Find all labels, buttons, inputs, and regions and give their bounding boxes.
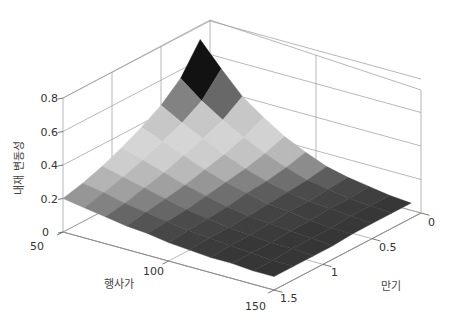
z-tick-0.2: 0.2 bbox=[41, 193, 59, 206]
z-tick bbox=[58, 199, 63, 200]
y-tick-0: 0 bbox=[428, 216, 435, 229]
z-tick-0: 0 bbox=[42, 226, 49, 239]
y-tick-1: 1 bbox=[331, 266, 338, 279]
strike-tick bbox=[163, 261, 169, 264]
volatility-surface bbox=[63, 40, 411, 277]
z-tick bbox=[58, 165, 63, 166]
z-tick bbox=[58, 232, 63, 233]
x-tick-100: 100 bbox=[143, 265, 164, 278]
z-axis-label: 내재 변동성 bbox=[13, 141, 26, 195]
z-tick-0.4: 0.4 bbox=[41, 159, 59, 172]
maturity-tick bbox=[421, 213, 429, 215]
z-tick-0.6: 0.6 bbox=[41, 126, 59, 139]
x-axis-label: 행사가 bbox=[104, 278, 134, 291]
y-tick-0.5: 0.5 bbox=[379, 241, 397, 254]
x-tick-50: 50 bbox=[30, 240, 44, 253]
z-tick bbox=[58, 132, 63, 133]
surface-chart: 0 0.2 0.4 0.6 0.8 50 100 150 0 0.5 1 1.5… bbox=[0, 0, 458, 327]
z-tick-0.8: 0.8 bbox=[41, 92, 59, 105]
z-tick bbox=[58, 98, 63, 99]
z-gridline bbox=[63, 21, 421, 98]
x-tick-150: 150 bbox=[245, 300, 266, 313]
strike-tick bbox=[268, 290, 274, 293]
y-tick-1.5: 1.5 bbox=[280, 292, 298, 305]
y-axis-label: 만기 bbox=[381, 280, 401, 293]
